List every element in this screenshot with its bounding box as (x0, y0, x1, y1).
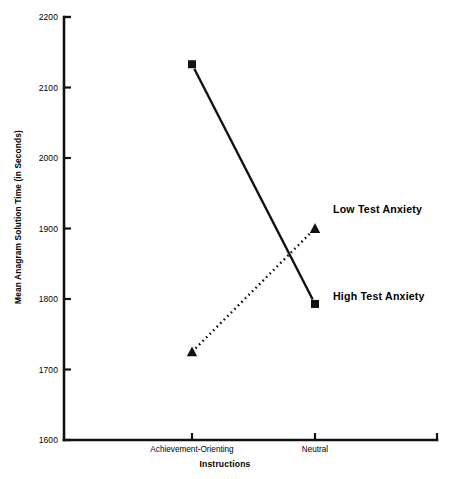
y-tick-label-2200: 2200 (18, 12, 58, 22)
y-tick-label-2100: 2100 (18, 83, 58, 93)
series-line-low-test-anxiety (196, 232, 312, 348)
x-tick-label-achievement-orienting: Achievement-Orienting (150, 445, 233, 455)
y-tick-label-1600: 1600 (18, 435, 58, 445)
x-axis-title: Instructions (0, 459, 450, 469)
data-point-high-test-anxiety-neutral (311, 300, 319, 308)
y-tick-label-2000: 2000 (18, 153, 58, 163)
y-tick-label-1900: 1900 (18, 224, 58, 234)
data-point-low-test-anxiety-neutral (310, 223, 320, 233)
anagram-solution-time-line-chart: 2200 2100 2000 1900 1800 1700 1600 Achie… (0, 0, 450, 479)
data-point-high-test-anxiety-achievement-orienting (188, 60, 196, 68)
y-tick-label-1700: 1700 (18, 365, 58, 375)
series-label-low-test-anxiety: Low Test Anxiety (333, 203, 422, 215)
chart-plot-area (0, 0, 450, 479)
y-axis-title: Mean Anagram Solution Time (in Seconds) (13, 107, 23, 327)
series-line-high-test-anxiety (194, 69, 312, 300)
x-tick-label-neutral: Neutral (302, 445, 328, 455)
series-label-high-test-anxiety: High Test Anxiety (333, 290, 425, 302)
y-tick-label-1800: 1800 (18, 294, 58, 304)
